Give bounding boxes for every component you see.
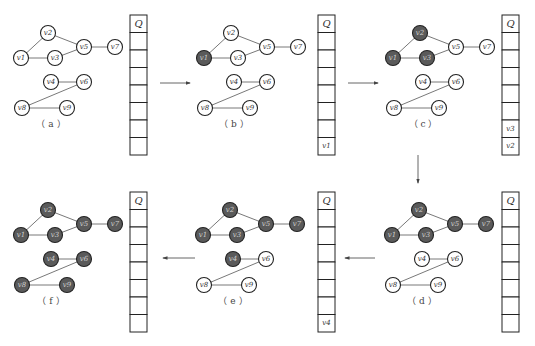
queue: Q <box>130 15 147 155</box>
node-v2: v2 <box>41 203 56 218</box>
panel-e: v1v2v3v5v7v4v6v8v9（ e ）Qv4 <box>196 192 336 332</box>
queue-cell <box>130 50 147 68</box>
node-label: v1 <box>17 231 25 239</box>
queue-header: Q <box>322 18 330 29</box>
queue-cell <box>502 315 519 333</box>
node-label: v5 <box>263 43 272 51</box>
node-v3: v3 <box>419 228 434 243</box>
queue-cell <box>130 315 147 333</box>
node-v2: v2 <box>224 26 239 41</box>
node-v5: v5 <box>77 40 92 55</box>
node-v9: v9 <box>60 101 75 116</box>
queue: Q <box>130 192 147 332</box>
node-label: v7 <box>293 220 302 228</box>
queue-cell <box>130 297 147 315</box>
queue-cell <box>130 120 147 138</box>
node-v3: v3 <box>48 228 63 243</box>
node-v8: v8 <box>387 101 402 116</box>
queue-cell <box>318 227 335 245</box>
queue-cell <box>318 262 335 280</box>
queue-cell <box>130 103 147 121</box>
node-v9: v9 <box>242 278 257 293</box>
node-v2: v2 <box>412 203 427 218</box>
node-v4: v4 <box>44 252 59 267</box>
node-v7: v7 <box>479 217 494 232</box>
node-v5: v5 <box>77 217 92 232</box>
queue-cell <box>502 103 519 121</box>
panel-label: （ f ） <box>37 296 64 306</box>
node-v3: v3 <box>48 51 63 66</box>
node-label: v4 <box>230 78 238 86</box>
node-label: v2 <box>416 29 425 37</box>
node-v1: v1 <box>386 51 401 66</box>
node-label: v8 <box>18 104 27 112</box>
queue-cell <box>318 33 335 51</box>
queue-cell <box>318 120 335 138</box>
panel-d: v1v2v3v5v7v4v6v8v9（ d ）Q <box>385 192 520 332</box>
node-label: v6 <box>80 255 89 263</box>
node-label: v9 <box>63 104 72 112</box>
node-label: v2 <box>227 29 236 37</box>
node-label: v6 <box>80 78 89 86</box>
queue: Qv1 <box>318 15 335 155</box>
node-label: v1 <box>200 54 208 62</box>
queue-cell <box>130 33 147 51</box>
node-v6: v6 <box>77 75 92 90</box>
node-v3: v3 <box>231 51 246 66</box>
node-label: v5 <box>80 43 89 51</box>
queue-header: Q <box>134 195 142 206</box>
node-label: v9 <box>63 281 72 289</box>
node-label: v2 <box>415 206 424 214</box>
node-v4: v4 <box>416 75 431 90</box>
queue-cell <box>130 210 147 228</box>
node-v2: v2 <box>41 26 56 41</box>
node-v6: v6 <box>77 252 92 267</box>
node-label: v1 <box>199 231 207 239</box>
node-label: v6 <box>451 255 460 263</box>
node-v3: v3 <box>420 51 435 66</box>
queue: Qv3v2 <box>502 15 519 155</box>
queue-cell <box>502 50 519 68</box>
queue: Q <box>502 192 519 332</box>
node-v6: v6 <box>449 75 464 90</box>
queue-cell <box>130 280 147 298</box>
node-label: v6 <box>263 78 272 86</box>
node-v8: v8 <box>386 278 401 293</box>
node-label: v5 <box>452 43 461 51</box>
queue-cell <box>318 245 335 263</box>
graph: v1v2v3v5v7v4v6v8v9 <box>196 203 305 293</box>
node-label: v5 <box>451 220 460 228</box>
node-v8: v8 <box>198 101 213 116</box>
node-label: v6 <box>452 78 461 86</box>
panel-b: v1v2v3v5v7v4v6v8v9（ b ）Qv1 <box>197 15 336 155</box>
queue-cell <box>318 68 335 86</box>
queue-cell <box>318 85 335 103</box>
queue-cell <box>130 68 147 86</box>
queue-cell <box>130 262 147 280</box>
node-label: v5 <box>262 220 271 228</box>
node-label: v8 <box>200 281 209 289</box>
queue-cell <box>502 210 519 228</box>
queue-cell <box>502 68 519 86</box>
node-v5: v5 <box>259 217 274 232</box>
node-v7: v7 <box>291 40 306 55</box>
node-v4: v4 <box>227 75 242 90</box>
queue-item: v1 <box>322 142 330 150</box>
node-label: v3 <box>422 231 431 239</box>
node-label: v8 <box>201 104 210 112</box>
node-label: v7 <box>483 43 492 51</box>
node-v4: v4 <box>226 252 241 267</box>
queue-cell <box>130 138 147 156</box>
graph: v1v2v3v5v7v4v6v8v9 <box>14 203 123 293</box>
node-label: v9 <box>434 281 443 289</box>
node-label: v7 <box>294 43 303 51</box>
panel-label: （ c ） <box>409 119 438 129</box>
queue-cell <box>318 297 335 315</box>
node-v6: v6 <box>448 252 463 267</box>
queue-cell <box>318 103 335 121</box>
queue-cell <box>130 227 147 245</box>
node-label: v3 <box>51 54 60 62</box>
queue-header: Q <box>506 18 514 29</box>
node-v8: v8 <box>197 278 212 293</box>
queue-cell <box>318 280 335 298</box>
